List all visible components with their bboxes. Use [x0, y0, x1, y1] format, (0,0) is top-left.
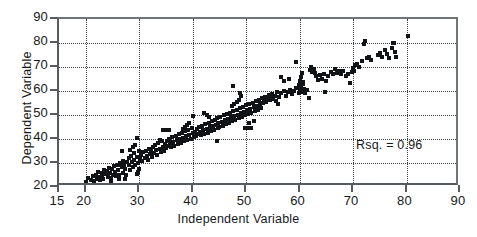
data-point	[124, 173, 128, 177]
data-point	[123, 177, 127, 181]
data-point	[117, 173, 121, 177]
y-tick-mark	[50, 113, 57, 115]
data-point	[294, 60, 298, 64]
data-point	[253, 109, 257, 113]
x-axis-title: Independent Variable	[0, 212, 477, 226]
data-point	[137, 149, 141, 153]
data-point	[162, 149, 166, 153]
data-point	[266, 97, 270, 101]
data-point	[214, 123, 218, 127]
data-point	[147, 147, 151, 151]
data-point	[346, 72, 350, 76]
data-point	[185, 123, 189, 127]
data-point	[135, 172, 139, 176]
data-point	[217, 125, 221, 129]
data-point	[95, 177, 99, 181]
data-point	[198, 130, 202, 134]
data-point	[297, 91, 301, 95]
data-point	[238, 91, 242, 95]
data-point	[209, 129, 213, 133]
data-point	[259, 106, 263, 110]
data-point	[144, 149, 148, 153]
data-point	[279, 91, 283, 95]
x-tick-mark	[84, 185, 86, 192]
data-point	[391, 41, 395, 45]
data-point	[113, 170, 117, 174]
data-point	[110, 167, 114, 171]
data-point	[218, 115, 222, 119]
data-point	[181, 127, 185, 131]
data-point	[104, 172, 108, 176]
data-point	[326, 74, 330, 78]
gridline-vertical	[246, 19, 247, 183]
data-point	[212, 128, 216, 132]
gridline-vertical	[353, 19, 354, 183]
data-point	[191, 114, 195, 118]
data-point	[100, 174, 104, 178]
data-point	[175, 138, 179, 142]
data-point	[138, 157, 142, 161]
data-point	[339, 72, 343, 76]
data-point	[133, 163, 137, 167]
data-point	[268, 98, 272, 102]
y-tick-mark	[50, 137, 57, 139]
y-tick-mark	[50, 89, 57, 91]
data-point	[282, 79, 286, 83]
data-point	[313, 71, 317, 75]
data-point	[102, 168, 106, 172]
data-point	[233, 118, 237, 122]
data-point	[118, 161, 122, 165]
data-point	[275, 90, 279, 94]
data-point	[136, 161, 140, 165]
data-point	[247, 102, 251, 106]
x-tick-label: 40	[171, 194, 211, 207]
data-point	[170, 135, 174, 139]
data-point	[298, 87, 302, 91]
data-point	[301, 82, 305, 86]
data-point	[91, 174, 95, 178]
data-point	[117, 177, 121, 181]
data-point	[133, 143, 137, 147]
data-point	[350, 70, 354, 74]
data-point	[242, 110, 246, 114]
data-point	[178, 137, 182, 141]
data-point	[168, 141, 172, 145]
data-point	[230, 104, 234, 108]
data-point	[307, 96, 311, 100]
data-point	[202, 111, 206, 115]
data-point	[161, 145, 165, 149]
data-point	[123, 167, 127, 171]
data-point	[112, 164, 116, 168]
data-point	[383, 48, 387, 52]
data-point	[387, 56, 391, 60]
data-point	[224, 122, 228, 126]
data-point	[309, 65, 313, 69]
data-point	[151, 145, 155, 149]
data-point	[393, 50, 397, 54]
data-point	[172, 144, 176, 148]
data-point	[208, 125, 212, 129]
data-point	[161, 128, 165, 132]
data-point	[320, 77, 324, 81]
data-point	[122, 163, 126, 167]
data-point	[100, 171, 104, 175]
data-point	[258, 102, 262, 106]
data-point	[287, 77, 291, 81]
data-point	[205, 113, 209, 117]
data-point	[223, 118, 227, 122]
data-point	[228, 111, 232, 115]
data-point	[116, 163, 120, 167]
data-point	[305, 88, 309, 92]
gridline-vertical	[86, 19, 87, 183]
data-point	[290, 92, 294, 96]
data-point	[135, 136, 139, 140]
data-point	[127, 156, 131, 160]
y-tick-mark	[50, 185, 57, 187]
data-point	[120, 149, 124, 153]
data-point	[240, 115, 244, 119]
data-point	[187, 133, 191, 137]
data-point	[101, 177, 105, 181]
data-point	[205, 127, 209, 131]
x-tick-mark	[191, 185, 193, 192]
data-point	[244, 103, 248, 107]
